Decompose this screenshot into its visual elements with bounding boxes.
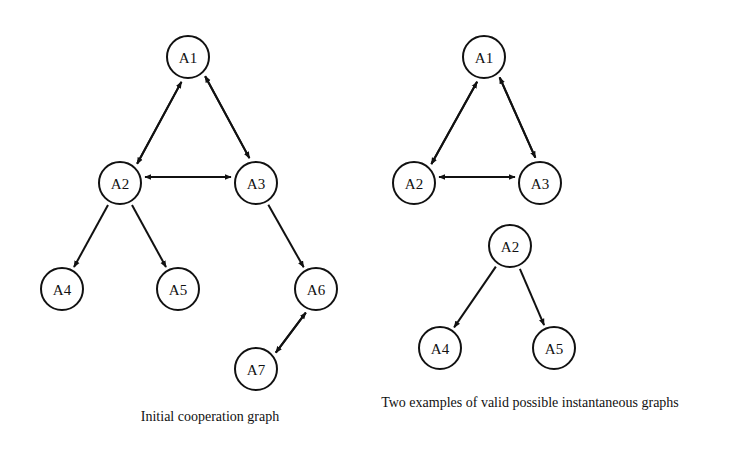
node-a6: A6 [295, 268, 337, 310]
node-a2: A2 [393, 162, 435, 204]
instantaneous-graph-tree: A2A4A5 [419, 225, 575, 369]
diagram-canvas: A1A2A3A4A5A6A7 A1A2A3 A2A4A5 [0, 0, 748, 457]
node-a4: A4 [419, 327, 461, 369]
edge-arrow-a2-to-a1 [431, 82, 477, 164]
node-label: A3 [531, 176, 549, 192]
node-label: A2 [111, 176, 129, 192]
node-a3: A3 [519, 162, 561, 204]
node-a4: A4 [41, 268, 83, 310]
edge-arrow-a2-to-a5 [132, 205, 166, 267]
edge-arrow-a3-to-a1 [205, 76, 249, 158]
caption-instantaneous-graphs: Two examples of valid possible instantan… [340, 394, 720, 412]
node-a7: A7 [235, 348, 277, 390]
node-a5: A5 [157, 268, 199, 310]
node-a1: A1 [167, 36, 209, 78]
edge-arrow-a2-to-a5 [520, 269, 544, 325]
node-a1: A1 [463, 36, 505, 78]
node-a2: A2 [99, 162, 141, 204]
node-label: A7 [247, 362, 266, 378]
edge-arrow-a2-to-a1 [137, 82, 181, 164]
edge-arrow-a7-to-a6 [276, 313, 306, 353]
caption-initial-graph: Initial cooperation graph [110, 408, 310, 426]
node-a3: A3 [235, 162, 277, 204]
node-label: A5 [169, 282, 187, 298]
node-label: A3 [247, 176, 265, 192]
node-label: A2 [405, 176, 423, 192]
node-label: A1 [179, 50, 197, 66]
node-label: A2 [501, 239, 519, 255]
node-a5: A5 [533, 327, 575, 369]
node-a2: A2 [489, 225, 531, 267]
edge-arrow-a2-to-a4 [454, 267, 496, 328]
node-label: A6 [307, 282, 326, 298]
node-label: A4 [53, 282, 72, 298]
node-label: A4 [431, 341, 450, 357]
edge-arrow-a3-to-a6 [268, 205, 303, 267]
edge-arrow-a3-to-a1 [500, 77, 536, 157]
edge-arrow-a2-to-a4 [74, 205, 108, 267]
node-label: A1 [475, 50, 493, 66]
node-label: A5 [545, 341, 563, 357]
initial-cooperation-graph: A1A2A3A4A5A6A7 [41, 36, 337, 390]
instantaneous-graph-triangle: A1A2A3 [393, 36, 561, 204]
